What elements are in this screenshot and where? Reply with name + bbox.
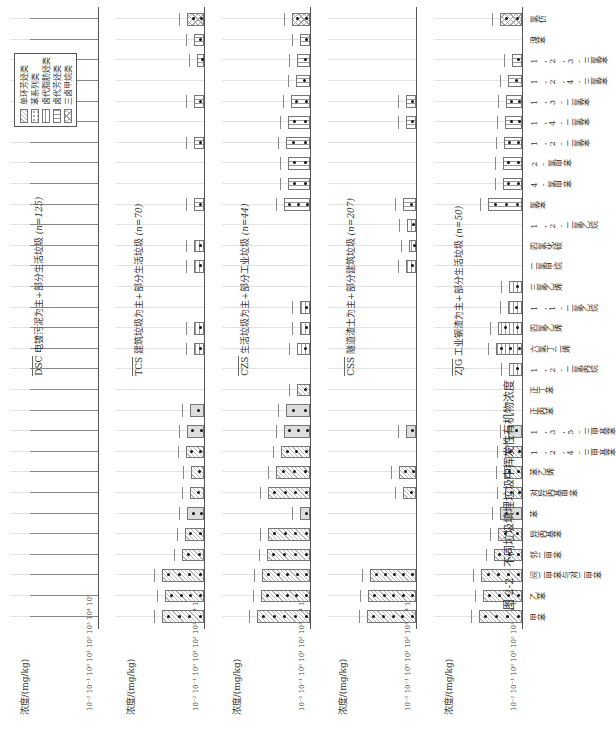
category-label: 对异丙基甲苯 <box>530 489 578 498</box>
grid-line <box>222 39 310 40</box>
data-point <box>294 615 297 618</box>
data-point <box>517 615 520 618</box>
data-point <box>200 512 203 515</box>
max-marker <box>268 466 269 479</box>
max-marker <box>186 95 187 108</box>
panel-title-dsc: DSC 电镀污泥为主+部分生活垃圾 (n=125) <box>32 197 45 376</box>
grid-line <box>328 18 416 19</box>
max-marker <box>179 507 180 520</box>
max-marker <box>154 610 155 623</box>
max-marker <box>497 487 498 500</box>
max-marker <box>488 343 489 356</box>
max-marker <box>154 569 155 582</box>
max-marker <box>280 116 281 129</box>
data-point <box>304 347 307 350</box>
grid-line <box>222 369 310 370</box>
bar <box>288 157 310 170</box>
max-marker <box>278 137 279 150</box>
data-point <box>294 553 297 556</box>
max-marker <box>179 13 180 26</box>
max-marker <box>278 404 279 417</box>
y-axis-label: 浓度/(mg/kg) <box>230 627 243 747</box>
data-point <box>199 203 202 206</box>
max-marker <box>473 569 474 582</box>
legend-label: 苯系列类 <box>29 73 40 105</box>
data-point <box>303 79 306 82</box>
data-point <box>304 141 307 144</box>
grid-line <box>328 286 416 287</box>
max-marker <box>398 95 399 108</box>
max-marker <box>260 487 261 500</box>
grid-line <box>328 451 416 452</box>
data-point <box>402 594 405 597</box>
data-point <box>305 615 308 618</box>
max-marker <box>260 528 261 541</box>
max-marker <box>486 549 487 562</box>
legend-label: 单环芳烃类 <box>18 65 29 105</box>
y-axis-label: 浓度/(mg/kg) <box>336 627 349 747</box>
data-point <box>288 203 291 206</box>
grid-line <box>116 286 204 287</box>
empty-series-line <box>30 183 98 184</box>
data-point <box>192 512 195 515</box>
data-point <box>286 450 289 453</box>
max-marker <box>490 322 491 335</box>
max-marker <box>359 610 360 623</box>
grid-line <box>328 430 416 431</box>
data-point <box>304 409 307 412</box>
data-point <box>283 553 286 556</box>
data-point <box>262 615 265 618</box>
grid-line <box>116 245 204 246</box>
max-marker <box>496 466 497 479</box>
x-axis-line <box>204 7 205 629</box>
empty-series-line <box>30 142 98 143</box>
category-label: 间二甲苯与对二甲苯 <box>530 572 602 581</box>
max-marker <box>492 507 493 520</box>
max-marker <box>157 590 158 603</box>
grid-line <box>116 142 204 143</box>
x-axis-line <box>98 7 99 629</box>
max-marker <box>504 54 505 67</box>
grid-line <box>328 183 416 184</box>
category-label: 苯 <box>530 510 538 519</box>
legend-swatch <box>53 109 61 123</box>
empty-series-line <box>30 430 98 431</box>
max-marker <box>391 466 392 479</box>
data-point <box>413 244 416 247</box>
data-point <box>495 615 498 618</box>
data-point <box>383 594 386 597</box>
grid-line <box>328 266 416 267</box>
category-label: 1,2-二氯苯 <box>530 139 590 148</box>
max-marker <box>492 13 493 26</box>
max-marker <box>186 198 187 211</box>
panel-zjg: 浓度/(mg/kg)10⁻² 10⁻¹ 10⁰ 10¹ 10² 10³ 10⁴ … <box>434 0 522 747</box>
max-marker <box>401 240 402 253</box>
max-marker <box>259 549 260 562</box>
max-marker <box>186 260 187 273</box>
y-axis-label: 浓度/(mg/kg) <box>442 627 455 747</box>
category-label: 1,2,4-三氯苯 <box>530 77 608 86</box>
panel-title-czs: CZS 生活垃圾为主+部分工业垃圾 (n=44) <box>238 203 251 375</box>
max-marker <box>186 34 187 47</box>
max-marker <box>273 446 274 459</box>
max-marker <box>497 446 498 459</box>
data-point <box>506 615 509 618</box>
grid-line <box>116 80 204 81</box>
grid-line <box>116 389 204 390</box>
grid-line <box>116 101 204 102</box>
data-point <box>292 409 295 412</box>
category-label: 二氯甲烷 <box>530 263 562 272</box>
data-point <box>197 491 200 494</box>
category-label: 六氯丁二烯 <box>530 345 570 354</box>
max-marker <box>471 610 472 623</box>
grid-line <box>328 39 416 40</box>
data-point <box>509 347 512 350</box>
data-point <box>518 491 521 494</box>
empty-series-line <box>30 410 98 411</box>
data-point <box>305 553 308 556</box>
max-marker <box>497 116 498 129</box>
category-label: 1,3,5-三甲基苯 <box>530 428 616 437</box>
y-axis-label: 浓度/(mg/kg) <box>18 627 31 747</box>
max-marker <box>178 446 179 459</box>
